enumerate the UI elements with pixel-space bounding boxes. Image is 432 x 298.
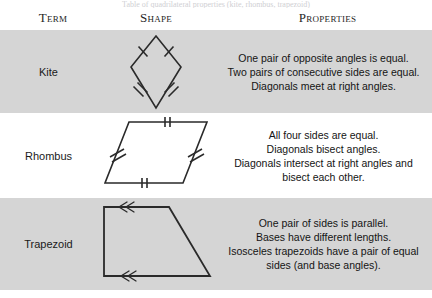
kite-diagram	[97, 30, 215, 113]
column-header-properties: Properties	[230, 8, 425, 28]
property-text: Diagonals meet at right angles.	[221, 79, 426, 93]
property-text: One pair of sides is parallel.	[221, 216, 426, 230]
property-text: Two pairs of consecutive sides are equal…	[221, 65, 426, 79]
properties-cell: One pair of opposite angles is equal. Tw…	[215, 30, 432, 113]
term-cell: Rhombus	[0, 113, 97, 198]
column-header-term: Term	[8, 8, 98, 28]
column-header-shape: Shape	[110, 8, 202, 28]
shape-cell	[97, 113, 215, 198]
properties-cell: One pair of sides is parallel. Bases hav…	[215, 198, 432, 290]
shape-cell	[97, 198, 215, 290]
property-text: One pair of opposite angles is equal.	[221, 51, 426, 65]
clipped-caption: Table of quadrilateral properties (kite,…	[0, 0, 432, 8]
table-header-row: Term Shape Properties	[0, 8, 432, 30]
property-text: All four sides are equal.	[221, 128, 426, 142]
trapezoid-diagram	[97, 198, 215, 290]
properties-cell: All four sides are equal. Diagonals bise…	[215, 113, 432, 198]
table-row: Kite One pair of opposite angles is	[0, 30, 432, 113]
term-cell: Kite	[0, 30, 97, 113]
table-row: Trapezoid One pair of sides is parallel	[0, 198, 432, 290]
table-row: Rhombus	[0, 113, 432, 198]
property-text: Diagonals intersect at right angles and …	[221, 156, 426, 184]
rhombus-diagram	[97, 113, 215, 198]
property-text: Bases have different lengths.	[221, 230, 426, 244]
quadrilateral-properties-table: Table of quadrilateral properties (kite,…	[0, 0, 432, 298]
property-text: Isosceles trapezoids have a pair of equa…	[221, 244, 426, 272]
term-cell: Trapezoid	[0, 198, 97, 290]
shape-cell	[97, 30, 215, 113]
property-text: Diagonals bisect angles.	[221, 142, 426, 156]
